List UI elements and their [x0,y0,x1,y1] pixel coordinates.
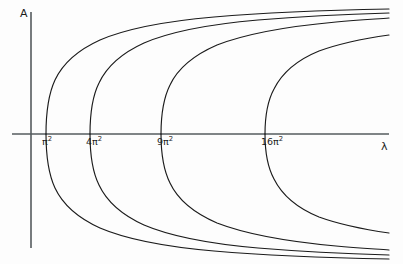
tick-label-4pi-squared-base: 4π [86,136,98,147]
plot-area [0,0,403,264]
branch-curve-4-lower [265,134,389,233]
branch-curve-2-lower [90,134,389,255]
branch-curve-3-lower [161,134,389,250]
tick-label-9pi-squared-base: 9π [157,136,169,147]
branch-curve-4-upper [265,35,389,134]
tick-label-16pi-squared-base: 16π [261,136,279,147]
tick-label-9pi-squared: 9π2 [157,137,173,147]
bifurcation-diagram-figure: A λ π2 4π2 9π2 16π2 [0,0,403,264]
x-axis-label: λ [381,141,388,152]
tick-label-4pi-squared-exp: 2 [98,135,102,143]
tick-label-16pi-squared-exp: 2 [279,135,283,143]
tick-label-pi-squared: π2 [42,137,52,147]
branch-curve-1-lower [46,134,389,259]
tick-label-9pi-squared-exp: 2 [169,135,173,143]
branch-curve-3-upper [161,18,389,134]
branch-curve-2-upper [90,13,389,134]
tick-label-16pi-squared: 16π2 [261,137,283,147]
y-axis-label: A [20,8,28,19]
branch-curve-1-upper [46,9,389,134]
tick-label-pi-squared-exp: 2 [48,135,52,143]
tick-label-4pi-squared: 4π2 [86,137,102,147]
